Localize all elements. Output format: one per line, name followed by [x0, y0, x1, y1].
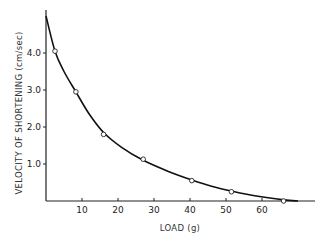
data-point-marker — [74, 90, 79, 95]
x-axis-title: LOAD (g) — [160, 223, 200, 233]
data-point-marker — [53, 49, 58, 54]
data-point-marker — [281, 199, 286, 204]
data-points — [53, 49, 286, 203]
x-tick-label: 60 — [256, 205, 268, 215]
x-tick-label: 20 — [112, 205, 124, 215]
chart: 1020304050601.02.03.04.0 LOAD (g) VELOCI… — [0, 0, 324, 241]
x-tick-label: 10 — [76, 205, 88, 215]
axes: 1020304050601.02.03.04.0 — [27, 10, 315, 215]
x-tick-label: 40 — [184, 205, 196, 215]
y-tick-label: 2.0 — [27, 122, 42, 132]
y-tick-label: 1.0 — [27, 159, 42, 169]
y-tick-label: 3.0 — [27, 85, 42, 95]
x-tick-label: 30 — [148, 205, 160, 215]
x-tick-label: 50 — [220, 205, 232, 215]
data-point-marker — [190, 178, 195, 183]
data-point-marker — [101, 132, 106, 137]
fitted-curve — [46, 16, 298, 201]
y-axis-title: VELOCITY OF SHORTENING (cm/sec) — [14, 31, 24, 194]
curve-path — [46, 16, 298, 201]
data-point-marker — [229, 189, 234, 194]
y-tick-label: 4.0 — [27, 48, 42, 58]
data-point-marker — [141, 157, 146, 162]
